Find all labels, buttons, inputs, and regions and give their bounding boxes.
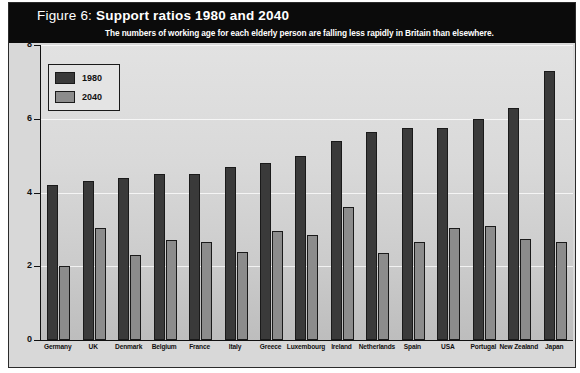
legend-item-2040: 2040 (55, 91, 117, 104)
bar-denmark-1980 (118, 178, 129, 340)
bar-japan-1980 (544, 71, 555, 340)
figure-title-main: Support ratios 1980 and 2040 (96, 8, 289, 23)
bar-greece-2040 (272, 231, 283, 340)
x-axis-labels: GermanyUKDenmarkBelgiumFranceItalyGreece… (40, 343, 572, 359)
legend-swatch-1980-icon (55, 72, 75, 84)
bar-group (183, 45, 218, 340)
bar-france-2040 (201, 242, 212, 340)
figure-title: Figure 6: Support ratios 1980 and 2040 (37, 8, 289, 23)
bar-uk-2040 (95, 228, 106, 340)
bar-group (396, 45, 431, 340)
legend-item-1980: 1980 (55, 72, 117, 85)
bar-group (538, 45, 573, 340)
bar-spain-1980 (402, 128, 413, 340)
y-axis-tick-label: 8 (8, 39, 32, 49)
legend-label-2040: 2040 (82, 92, 102, 102)
bar-portugal-1980 (473, 119, 484, 340)
bar-france-1980 (189, 174, 200, 340)
figure-subtitle: The numbers of working age for each elde… (105, 28, 494, 38)
bar-usa-2040 (449, 228, 460, 340)
bar-italy-1980 (225, 167, 236, 340)
bar-series-container (41, 45, 573, 340)
bar-uk-1980 (83, 181, 94, 340)
bar-group (502, 45, 537, 340)
y-axis-tick-label: 0 (8, 334, 32, 344)
bar-usa-1980 (437, 128, 448, 340)
bar-ireland-1980 (331, 141, 342, 340)
bar-netherlands-2040 (378, 253, 389, 340)
figure-title-prefix: Figure 6: (37, 8, 92, 23)
bar-japan-2040 (556, 242, 567, 340)
figure-header-band: Figure 6: Support ratios 1980 and 2040 T… (9, 3, 575, 43)
bar-greece-1980 (260, 163, 271, 340)
legend-swatch-2040-icon (55, 91, 75, 103)
bar-group (325, 45, 360, 340)
bar-denmark-2040 (130, 255, 141, 340)
bar-group (431, 45, 466, 340)
bar-spain-2040 (414, 242, 425, 340)
bar-belgium-1980 (154, 174, 165, 340)
legend-label-1980: 1980 (82, 73, 102, 83)
chart-legend: 1980 2040 (48, 64, 120, 111)
bar-group (147, 45, 182, 340)
bar-group (289, 45, 324, 340)
bar-luxembourg-2040 (307, 235, 318, 340)
bar-new-zealand-1980 (508, 108, 519, 340)
bar-new-zealand-2040 (520, 239, 531, 340)
y-axis-tick-label: 4 (8, 187, 32, 197)
bar-group (254, 45, 289, 340)
bar-portugal-2040 (485, 226, 496, 340)
bar-group (467, 45, 502, 340)
bar-group (218, 45, 253, 340)
bar-belgium-2040 (166, 240, 177, 340)
bar-ireland-2040 (343, 207, 354, 340)
bar-germany-1980 (47, 185, 58, 340)
bar-italy-2040 (237, 252, 248, 341)
bar-group (360, 45, 395, 340)
bar-germany-2040 (59, 266, 70, 340)
y-axis-tick-label: 2 (8, 260, 32, 270)
bar-luxembourg-1980 (295, 156, 306, 340)
bar-netherlands-1980 (366, 132, 377, 340)
y-axis-tick-label: 6 (8, 113, 32, 123)
x-axis-label-japan: Japan (531, 343, 578, 350)
figure-screenshot: Figure 6: Support ratios 1980 and 2040 T… (0, 0, 580, 373)
